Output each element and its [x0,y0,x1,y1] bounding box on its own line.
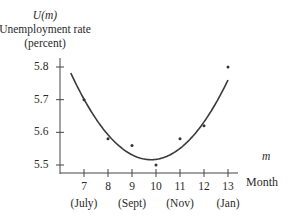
x-tick-label: 12 [198,180,210,193]
data-point [179,137,182,140]
y-axis-function-label: U(m) [33,9,57,22]
y-tick-label: 5.7 [34,93,48,106]
x-tick-label: 10 [150,180,162,193]
data-point [203,124,206,127]
x-tick-label: 7 [81,180,87,193]
data-point [227,66,230,69]
x-axis-title: Month [246,176,278,189]
x-axis-variable-label: m [262,150,270,163]
y-tick-label: 5.8 [34,60,48,73]
x-month-name-label: (Nov) [166,197,193,210]
x-tick-label: 13 [222,180,234,193]
y-axis-title: Unemployment rate [0,23,91,36]
data-point [155,164,158,167]
x-month-name-label: (July) [71,197,98,210]
data-point [131,144,134,147]
y-tick-label: 5.5 [34,158,48,171]
fit-curve [71,73,228,160]
y-tick-label: 5.6 [34,125,48,138]
y-axis-unit: (percent) [24,37,66,50]
x-tick-label: 9 [129,180,135,193]
x-month-name-label: (Sept) [118,197,146,210]
x-month-name-label: (Jan) [217,197,240,210]
data-point [83,98,86,101]
x-tick-label: 11 [174,180,185,193]
data-point [107,137,110,140]
x-tick-label: 8 [105,180,111,193]
